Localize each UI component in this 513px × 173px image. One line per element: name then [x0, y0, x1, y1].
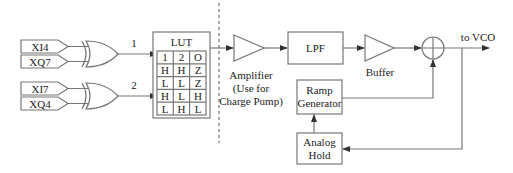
- svg-text:H: H: [161, 90, 169, 102]
- svg-text:Analog: Analog: [303, 136, 336, 148]
- svg-text:L: L: [195, 103, 202, 115]
- svg-text:H: H: [161, 64, 169, 76]
- summing-junction: [422, 37, 444, 59]
- svg-text:(Use for: (Use for: [233, 82, 270, 95]
- svg-text:Z: Z: [195, 77, 202, 89]
- svg-text:Ramp: Ramp: [306, 84, 333, 96]
- svg-text:XQ4: XQ4: [29, 98, 51, 110]
- amplifier-block: Amplifier (Use for Charge Pump): [219, 35, 283, 108]
- lut-header-o: O: [194, 51, 202, 63]
- lut-title: LUT: [171, 36, 193, 48]
- xor-gate-2: [82, 83, 118, 109]
- svg-text:Hold: Hold: [309, 149, 332, 161]
- input-tag-xi4: XI4: [21, 40, 68, 53]
- svg-text:L: L: [178, 77, 185, 89]
- lut-header-1: 1: [162, 51, 168, 63]
- buffer-block: Buffer: [365, 35, 395, 78]
- input-tag-xq4: XQ4: [21, 97, 68, 110]
- svg-text:L: L: [162, 77, 169, 89]
- analog-hold-block: Analog Hold: [297, 133, 342, 164]
- input-tag-xq7: XQ7: [21, 55, 68, 68]
- svg-text:Z: Z: [195, 64, 202, 76]
- svg-text:H: H: [194, 90, 202, 102]
- svg-text:XI7: XI7: [31, 83, 49, 95]
- lut-header-2: 2: [179, 51, 185, 63]
- lut-block: LUT 1 2 O H H Z L L Z H L H L H L: [153, 32, 210, 118]
- svg-text:Charge Pump): Charge Pump): [219, 95, 283, 108]
- signal-1-label: 1: [131, 37, 137, 49]
- svg-text:XI4: XI4: [31, 41, 49, 53]
- svg-text:L: L: [178, 90, 185, 102]
- output-label: to VCO: [461, 31, 495, 43]
- svg-text:H: H: [178, 64, 186, 76]
- lpf-block: LPF: [288, 32, 343, 64]
- svg-text:Generator: Generator: [298, 97, 342, 109]
- ramp-generator-block: Ramp Generator: [297, 80, 342, 114]
- input-tag-xi7: XI7: [21, 82, 68, 95]
- svg-text:XQ7: XQ7: [29, 56, 51, 68]
- svg-text:Buffer: Buffer: [366, 66, 395, 78]
- svg-text:L: L: [162, 103, 169, 115]
- svg-text:Amplifier: Amplifier: [229, 69, 273, 81]
- signal-2-label: 2: [131, 79, 137, 91]
- svg-text:H: H: [178, 103, 186, 115]
- xor-gate-1: [82, 41, 118, 67]
- block-diagram: XI4 XQ7 XI7 XQ4 1 2 LUT 1 2 O: [0, 0, 513, 173]
- svg-text:LPF: LPF: [306, 42, 325, 54]
